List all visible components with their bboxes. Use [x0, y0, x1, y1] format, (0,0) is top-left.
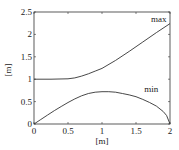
annotation-min: min — [144, 84, 159, 94]
y-tick-label: 0 — [28, 119, 33, 129]
y-tick-label: 1 — [28, 74, 33, 84]
x-tick-label: 2 — [168, 126, 173, 136]
chart: 00.511.5200.511.522.5 maxmin [m] [m] — [0, 0, 179, 150]
x-tick-label: 0.5 — [62, 126, 74, 136]
x-axis-label: [m] — [96, 136, 109, 146]
x-tick-label: 1.5 — [130, 126, 142, 136]
y-tick-label: 2.5 — [21, 7, 33, 17]
annotations: maxmin — [144, 14, 167, 94]
annotation-max: max — [151, 14, 167, 24]
axis-ticks: 00.511.5200.511.522.5 — [21, 7, 173, 136]
x-tick-label: 0 — [32, 126, 37, 136]
y-tick-label: 0.5 — [21, 97, 33, 107]
series-min-line — [34, 92, 170, 124]
x-tick-label: 1 — [100, 126, 105, 136]
y-tick-label: 1.5 — [21, 52, 33, 62]
y-axis-label: [m] — [3, 64, 13, 77]
data-series — [34, 24, 170, 124]
y-tick-label: 2 — [28, 29, 33, 39]
series-max-line — [34, 24, 170, 80]
